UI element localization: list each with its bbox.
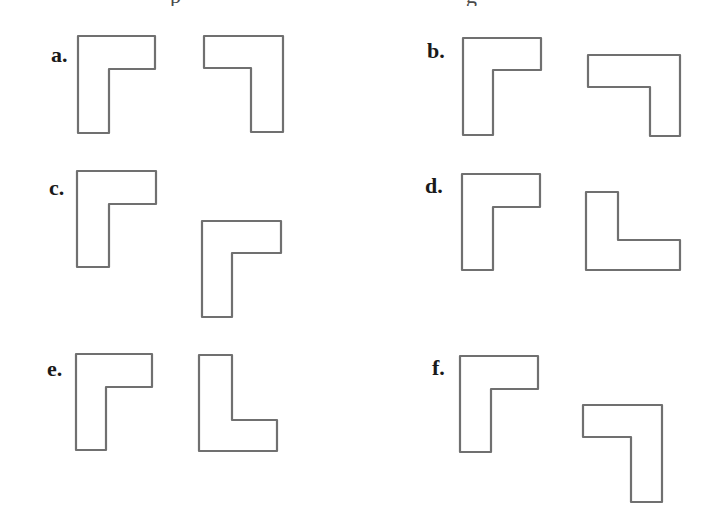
comparison-shape	[199, 355, 277, 451]
comparison-shape	[586, 192, 680, 270]
reference-l-shape	[77, 171, 156, 267]
option-f	[460, 356, 662, 502]
l-shape-rotation-figure: p g a. b. c. d. e. f.	[0, 0, 706, 518]
option-c	[77, 171, 281, 317]
option-label-a: a.	[51, 44, 68, 66]
reference-l-shape	[460, 356, 538, 452]
option-label-b: b.	[427, 40, 445, 62]
comparison-shape	[204, 36, 283, 132]
comparison-shape	[588, 55, 680, 136]
comparison-shape	[202, 221, 281, 317]
option-label-e: e.	[47, 358, 62, 380]
reference-l-shape	[463, 38, 541, 135]
option-d	[462, 174, 680, 270]
reference-l-shape	[78, 36, 155, 133]
option-label-c: c.	[49, 177, 64, 199]
option-label-f: f.	[432, 357, 445, 379]
option-b	[463, 38, 680, 136]
option-e	[76, 354, 277, 451]
option-label-d: d.	[425, 175, 443, 197]
reference-l-shape	[76, 354, 152, 450]
reference-l-shape	[462, 174, 540, 270]
comparison-shape	[583, 405, 662, 502]
option-a	[78, 36, 283, 133]
shapes-canvas	[0, 0, 706, 518]
